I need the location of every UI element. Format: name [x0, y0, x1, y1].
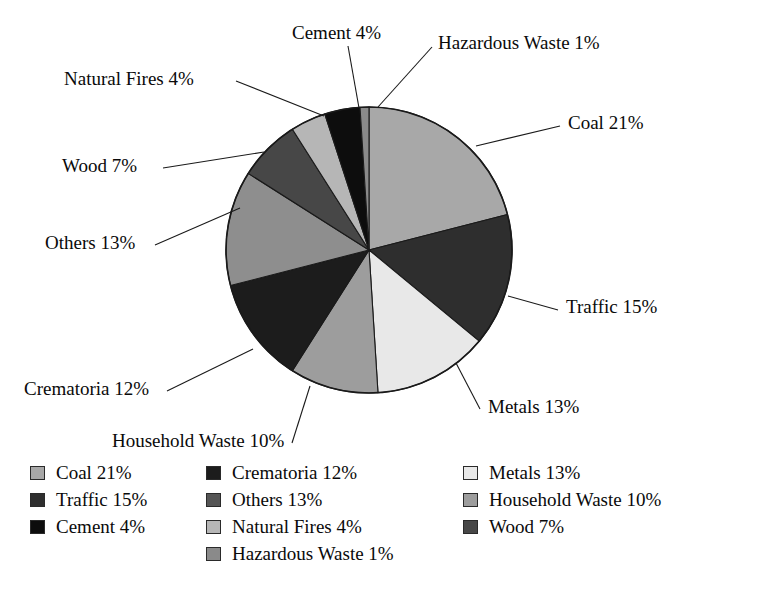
callout-line-metals	[456, 363, 480, 409]
legend-swatch-icon	[206, 520, 221, 534]
legend-item: Cement 4%	[30, 513, 147, 540]
legend-label: Metals 13%	[489, 463, 580, 482]
legend-column-3: Metals 13%Household Waste 10%Wood 7%	[463, 459, 661, 540]
callout-label-traffic: Traffic 15%	[566, 296, 657, 318]
legend-label: Household Waste 10%	[489, 490, 661, 509]
legend-swatch-icon	[206, 466, 221, 480]
legend-column-1: Coal 21%Traffic 15%Cement 4%	[30, 459, 147, 540]
callout-line-wood	[163, 152, 264, 168]
legend-label: Traffic 15%	[56, 490, 147, 509]
callout-label-wood: Wood 7%	[62, 155, 137, 177]
legend-item: Coal 21%	[30, 459, 147, 486]
legend-swatch-icon	[30, 520, 45, 534]
legend-label: Cement 4%	[56, 517, 145, 536]
pie-slice-group	[226, 107, 512, 393]
callout-label-cement: Cement 4%	[292, 22, 381, 44]
legend-item: Crematoria 12%	[206, 459, 394, 486]
legend-item: Wood 7%	[463, 513, 661, 540]
callout-line-crematoria	[167, 349, 253, 391]
callout-label-others: Others 13%	[45, 232, 135, 254]
legend-label: Wood 7%	[489, 517, 564, 536]
legend-swatch-icon	[463, 520, 478, 534]
callout-line-household-waste	[292, 386, 310, 443]
callout-label-hazardous-waste: Hazardous Waste 1%	[438, 32, 600, 54]
legend-item: Household Waste 10%	[463, 486, 661, 513]
pie-chart-figure: Cement 4%Hazardous Waste 1%Natural Fires…	[0, 0, 763, 595]
callout-line-hazardous-waste	[378, 47, 432, 107]
legend-swatch-icon	[206, 547, 221, 561]
legend-swatch-icon	[463, 466, 478, 480]
legend-label: Others 13%	[232, 490, 322, 509]
chart-legend: Coal 21%Traffic 15%Cement 4% Crematoria …	[30, 459, 730, 574]
callout-line-traffic	[508, 296, 558, 310]
legend-item: Metals 13%	[463, 459, 661, 486]
legend-column-2: Crematoria 12%Others 13%Natural Fires 4%…	[206, 459, 394, 567]
legend-item: Hazardous Waste 1%	[206, 540, 394, 567]
callout-label-coal: Coal 21%	[568, 112, 643, 134]
legend-swatch-icon	[30, 493, 45, 507]
callout-label-crematoria: Crematoria 12%	[24, 378, 149, 400]
legend-item: Natural Fires 4%	[206, 513, 394, 540]
callout-label-natural-fires: Natural Fires 4%	[64, 68, 194, 90]
legend-label: Coal 21%	[56, 463, 131, 482]
legend-item: Traffic 15%	[30, 486, 147, 513]
legend-label: Natural Fires 4%	[232, 517, 362, 536]
legend-swatch-icon	[30, 466, 45, 480]
callout-label-household-waste: Household Waste 10%	[112, 430, 284, 452]
legend-item: Others 13%	[206, 486, 394, 513]
callout-line-natural-fires	[236, 81, 324, 116]
callout-label-metals: Metals 13%	[488, 396, 579, 418]
callout-line-coal	[476, 126, 560, 146]
legend-label: Crematoria 12%	[232, 463, 357, 482]
callout-line-cement	[348, 46, 359, 108]
legend-swatch-icon	[206, 493, 221, 507]
legend-swatch-icon	[463, 493, 478, 507]
legend-label: Hazardous Waste 1%	[232, 544, 394, 563]
